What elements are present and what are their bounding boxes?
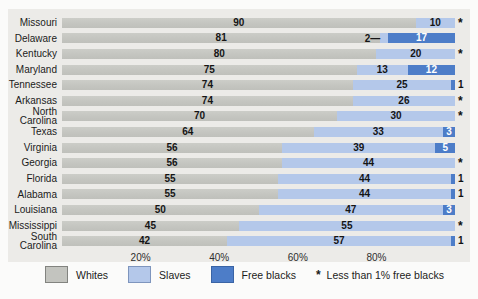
slaves-value: 10 — [430, 18, 441, 28]
chart-row: South Carolina42571 — [8, 233, 470, 249]
slaves-value: 47 — [345, 205, 356, 215]
state-label: Delaware — [8, 34, 62, 44]
whites-segment: 56 — [62, 158, 282, 168]
stacked-bar: 8020 — [62, 49, 455, 59]
chart-row: North Carolina7030* — [8, 109, 470, 125]
free-blacks-segment — [451, 80, 455, 90]
row-annotation: * — [455, 110, 470, 122]
slaves-segment: 30 — [337, 111, 455, 121]
slaves-value: 20 — [410, 49, 421, 59]
slaves-value: 44 — [363, 158, 374, 168]
x-axis: 20% 40% 60% 80% — [8, 251, 470, 265]
axis-left-spacer — [8, 251, 62, 265]
slaves-segment: 44 — [278, 174, 451, 184]
stacked-bar: 5544 — [62, 189, 455, 199]
state-label: Maryland — [8, 65, 62, 75]
legend-label-slaves: Slaves — [159, 269, 191, 281]
state-label: North Carolina — [8, 107, 62, 126]
free-blacks-value: 3 — [446, 205, 452, 215]
slaves-segment: 57 — [227, 236, 451, 246]
slaves-value: 44 — [359, 174, 370, 184]
whites-segment: 56 — [62, 143, 282, 153]
chart-rows: Missouri9010*Delaware81172—Kentucky8020*… — [8, 15, 470, 249]
free-blacks-swatch-icon — [211, 266, 234, 283]
free-blacks-segment — [451, 236, 455, 246]
slaves-segment: 25 — [353, 80, 451, 90]
slaves-value: 33 — [373, 127, 384, 137]
whites-segment: 80 — [62, 49, 376, 59]
free-blacks-segment: 5 — [435, 143, 455, 153]
slaves-value: 30 — [390, 111, 401, 121]
whites-value: 55 — [165, 189, 176, 199]
row-annotation: 1 — [455, 236, 470, 246]
slaves-value: 25 — [396, 80, 407, 90]
whites-segment: 70 — [62, 111, 337, 121]
slaves-value: 26 — [398, 96, 409, 106]
legend-item-whites: Whites — [45, 266, 108, 283]
stacked-bar: 5644 — [62, 158, 455, 168]
state-label: Kentucky — [8, 49, 62, 59]
whites-value: 64 — [182, 127, 193, 137]
row-annotation: 1 — [455, 189, 470, 199]
whites-segment: 81 — [62, 33, 380, 43]
whites-segment: 74 — [62, 96, 353, 106]
stacked-bar: 5544 — [62, 174, 455, 184]
free-blacks-segment: 3 — [443, 205, 455, 215]
whites-value: 90 — [233, 18, 244, 28]
legend: Whites Slaves Free blacks * Less than 1%… — [0, 266, 478, 283]
free-blacks-segment — [451, 189, 455, 199]
stacked-bar: 50473 — [62, 205, 455, 215]
chart-row: Maryland751312 — [8, 62, 470, 78]
free-blacks-segment — [451, 174, 455, 184]
stacked-bar: 56395 — [62, 143, 455, 153]
state-label: Virginia — [8, 143, 62, 153]
state-label: Florida — [8, 174, 62, 184]
slaves-value: 55 — [341, 221, 352, 231]
axis-tick-80: 80% — [366, 252, 386, 263]
chart-row: Kentucky8020* — [8, 46, 470, 62]
slaves-value: 39 — [353, 143, 364, 153]
whites-value: 56 — [166, 143, 177, 153]
free-blacks-segment: 12 — [408, 65, 455, 75]
state-label: Louisiana — [8, 205, 62, 215]
whites-value: 75 — [204, 65, 215, 75]
whites-value: 45 — [145, 221, 156, 231]
whites-segment: 64 — [62, 127, 314, 137]
slaves-segment: 10 — [416, 18, 455, 28]
state-label: Texas — [8, 127, 62, 137]
slaves-segment: 26 — [353, 96, 455, 106]
row-annotation: * — [455, 48, 470, 60]
slaves-value-leader: 2— — [365, 33, 381, 44]
row-annotation: * — [455, 17, 470, 29]
state-label: Arkansas — [8, 96, 62, 106]
chart-row: Tennessee74251 — [8, 77, 470, 93]
chart-panel: Missouri9010*Delaware81172—Kentucky8020*… — [8, 9, 470, 262]
whites-value: 70 — [194, 111, 205, 121]
chart-row: Mississippi4555* — [8, 218, 470, 234]
slaves-segment: 13 — [357, 65, 408, 75]
whites-value: 74 — [202, 80, 213, 90]
slaves-segment: 20 — [376, 49, 455, 59]
whites-segment: 55 — [62, 189, 278, 199]
slaves-segment: 44 — [282, 158, 455, 168]
legend-label-whites: Whites — [76, 269, 108, 281]
chart-row: Virginia56395 — [8, 140, 470, 156]
whites-value: 80 — [214, 49, 225, 59]
footnote-text: Less than 1% free blacks — [327, 269, 444, 281]
chart-row: Alabama55441 — [8, 187, 470, 203]
legend-item-free-blacks: Free blacks — [211, 266, 296, 283]
stacked-bar: 4555 — [62, 221, 455, 231]
stacked-bar: 7030 — [62, 111, 455, 121]
slaves-value: 57 — [333, 236, 344, 246]
whites-segment: 74 — [62, 80, 353, 90]
whites-segment: 75 — [62, 65, 357, 75]
whites-segment: 55 — [62, 174, 278, 184]
whites-value: 55 — [165, 174, 176, 184]
slaves-value: 44 — [359, 189, 370, 199]
chart-row: Georgia5644* — [8, 155, 470, 171]
slaves-segment: 55 — [239, 221, 455, 231]
whites-value: 56 — [166, 158, 177, 168]
chart-row: Arkansas7426* — [8, 93, 470, 109]
chart-row: Texas64333 — [8, 124, 470, 140]
whites-swatch-icon — [45, 266, 68, 283]
